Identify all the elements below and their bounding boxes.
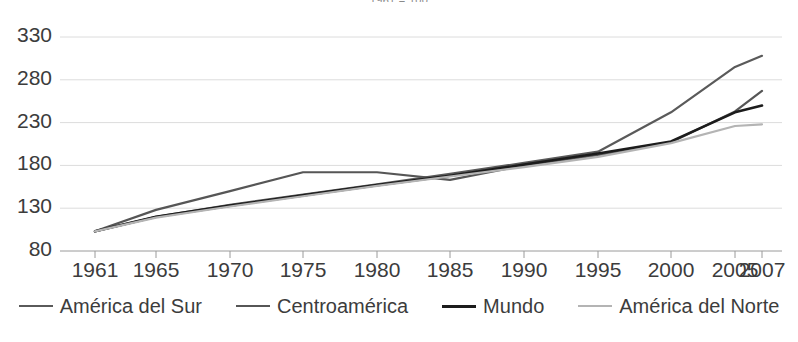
legend-label: América del Norte [619, 296, 779, 316]
x-tick-label: 1990 [489, 258, 559, 282]
legend-line-swatch [236, 305, 270, 307]
y-tick-label: 280 [0, 66, 52, 90]
legend-line-swatch [19, 305, 53, 307]
y-tick-label: 330 [0, 23, 52, 47]
plot-area [0, 0, 798, 342]
y-tick-label: 180 [0, 151, 52, 175]
legend-line-swatch [442, 305, 476, 308]
legend-item[interactable]: América del Sur [19, 296, 202, 316]
x-tick-label: 1965 [121, 258, 191, 282]
x-tick-label: 1985 [415, 258, 485, 282]
y-tick-label: 230 [0, 109, 52, 133]
legend-item[interactable]: Mundo [442, 296, 544, 316]
x-tick-label: 1961 [60, 258, 130, 282]
legend-item[interactable]: América del Norte [578, 296, 779, 316]
chart-legend: América del SurCentroaméricaMundoAmérica… [0, 296, 798, 316]
x-tick-label: 2007 [727, 258, 797, 282]
x-tick-label: 1970 [195, 258, 265, 282]
y-tick-label: 80 [0, 237, 52, 261]
legend-label: Centroamérica [277, 296, 408, 316]
x-tick-label: 1980 [342, 258, 412, 282]
x-tick-label: 1975 [268, 258, 338, 282]
x-tick-label: 2000 [636, 258, 706, 282]
y-tick-label: 130 [0, 194, 52, 218]
line-chart: 1961 = 100 33028023018013080 19611965197… [0, 0, 798, 342]
legend-item[interactable]: Centroamérica [236, 296, 408, 316]
x-tick-label: 1995 [563, 258, 633, 282]
legend-label: Mundo [483, 296, 544, 316]
legend-line-swatch [578, 305, 612, 307]
legend-label: América del Sur [60, 296, 202, 316]
